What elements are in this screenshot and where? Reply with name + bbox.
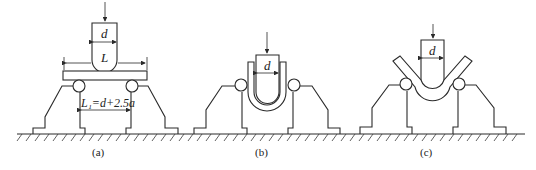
ground <box>17 134 525 141</box>
right-roller <box>126 80 138 92</box>
caption-a: (a) <box>92 146 105 159</box>
caption-b: (b) <box>255 146 268 159</box>
left-roller <box>235 79 247 91</box>
left-roller <box>400 78 412 90</box>
right-roller <box>453 78 465 90</box>
caption-c: (c) <box>420 146 433 159</box>
specimen-length-label: L <box>100 50 108 65</box>
left-roller <box>73 80 85 92</box>
support-gap-label: L₁=d+2.5a <box>80 96 135 110</box>
punch-diameter-label: d <box>264 58 271 73</box>
flat-specimen <box>63 71 147 80</box>
bend-test-diagram: d L L₁=d+2.5a (a) d (b) <box>0 0 536 170</box>
punch-diameter-label: d <box>101 26 108 41</box>
right-roller <box>288 79 300 91</box>
punch-diameter-label: d <box>429 43 436 58</box>
